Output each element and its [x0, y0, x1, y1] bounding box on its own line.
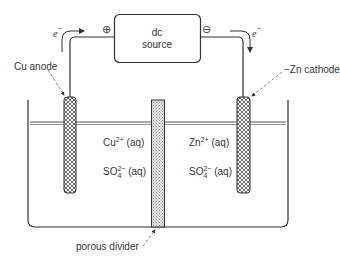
sulfate-ion-label-left: SO2−4 (aq): [103, 165, 146, 179]
electron-flow-arrow-left: [62, 31, 84, 52]
electron-flow-arrow-right: [230, 31, 250, 52]
porous-divider-label: porous divider: [76, 242, 139, 252]
porous-divider: [152, 100, 165, 227]
cu-anode-electrode: [64, 97, 76, 193]
dc-source-label-line1: dc: [114, 27, 200, 38]
negative-terminal-icon: ⊖: [202, 24, 211, 35]
dc-source-label-line2: source: [114, 39, 200, 50]
zn-cathode-electrode: [237, 97, 250, 193]
anode-leader-line: [48, 70, 64, 95]
sulfate-ion-label-right: SO2−4 (aq): [189, 165, 232, 179]
electron-label-left: e−: [53, 24, 62, 40]
cu-ion-label: Cu2+ (aq): [103, 136, 144, 148]
cu-anode-label: Cu anode: [14, 62, 57, 72]
zn-ion-label: Zn2+ (aq): [189, 136, 229, 148]
cathode-wire: [201, 37, 244, 97]
cathode-leader-line: [252, 72, 282, 96]
anode-wire: [70, 37, 115, 97]
divider-leader-line: [143, 230, 155, 246]
electron-label-right: e−: [252, 24, 261, 40]
positive-terminal-icon: ⊕: [102, 24, 111, 35]
zn-cathode-label: −Zn cathode: [284, 65, 340, 75]
